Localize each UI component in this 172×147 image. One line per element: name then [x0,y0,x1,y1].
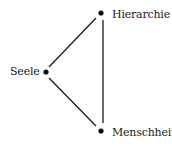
label-menschheit: Menschheit [112,127,172,139]
node-dot-hierarchie [98,10,103,15]
edge-seele-hierarchie [49,18,96,67]
label-hierarchie: Hierarchie [112,9,170,21]
edge-seele-menschheit [49,78,96,126]
node-dot-seele [43,69,48,74]
node-dot-menschheit [98,128,103,133]
label-seele: Seele [10,66,40,78]
relation-diagram: Hierarchie Seele Menschheit [0,0,172,147]
